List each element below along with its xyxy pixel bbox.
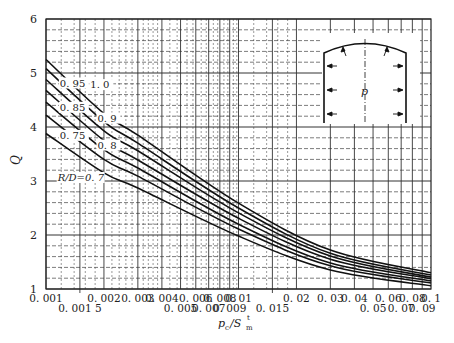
x-label-p: p xyxy=(218,317,225,330)
x-label-sub-m: m xyxy=(246,324,253,332)
x-tick-label-secondary: 0. 05 xyxy=(360,302,387,314)
x-label-sub-c: c xyxy=(225,324,229,332)
y-tick-label: 4 xyxy=(30,121,37,134)
y-tick-label: 6 xyxy=(30,13,37,26)
curve-label: 0. 85 xyxy=(60,102,85,113)
x-axis-label: p c /S m t xyxy=(218,314,253,332)
curve-label: 0. 8 xyxy=(97,140,116,151)
x-axis-ticks: 0. 0010. 0020. 0030. 0040. 0060. 0080. 0… xyxy=(29,292,441,314)
y-tick-label: 3 xyxy=(30,175,37,188)
x-tick-label-secondary: 0. 001 5 xyxy=(58,302,101,314)
curve-labels: 1. 00. 950. 90. 850. 80. 75R/D=0. 7 xyxy=(57,78,121,184)
x-label-sup-t: t xyxy=(247,314,250,322)
y-tick-label: 5 xyxy=(30,67,37,80)
pressure-label: p xyxy=(361,85,368,98)
y-axis-label: Q xyxy=(9,155,23,165)
y-tick-label: 2 xyxy=(30,229,37,242)
tunnel-inset-diagram: p xyxy=(322,33,420,124)
curve-label: R/D=0. 7 xyxy=(57,172,105,183)
x-tick-label-secondary: 0. 015 xyxy=(256,302,289,314)
x-tick-label-secondary: 0. 09 xyxy=(409,302,436,314)
chart: 1. 00. 950. 90. 850. 80. 75R/D=0. 7 1234… xyxy=(0,0,454,343)
curve-label: 0. 9 xyxy=(97,113,116,124)
x-tick-label: 0. 03 xyxy=(317,292,344,304)
y-axis-ticks: 123456 xyxy=(30,13,37,296)
x-tick-label-secondary: 0. 009 xyxy=(213,302,246,314)
x-label-sep: /S xyxy=(229,317,242,330)
curve-label: 0. 75 xyxy=(60,130,85,141)
curve-label: 1. 0 xyxy=(90,79,109,90)
curve-label: 0. 95 xyxy=(60,78,85,89)
